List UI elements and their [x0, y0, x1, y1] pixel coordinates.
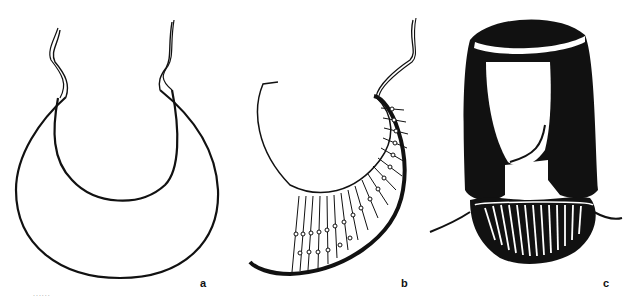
panel-a-collar [16, 20, 218, 278]
panel-c-figure [430, 19, 622, 264]
caption-fragment: ...... [33, 290, 51, 297]
panel-b-collar [250, 18, 416, 274]
panel-label-a: a [200, 277, 206, 289]
panel-label-c: c [603, 277, 609, 289]
panel-label-b: b [401, 277, 408, 289]
illustration-canvas [0, 0, 635, 300]
